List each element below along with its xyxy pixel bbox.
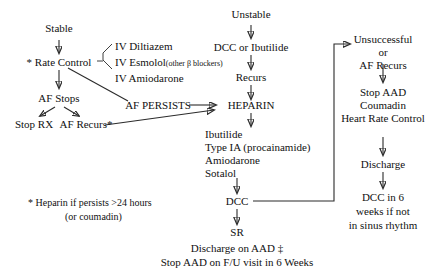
node-unsuccessful: Unsuccessful — [354, 33, 413, 46]
node-af-stops: AF Stops — [38, 92, 79, 105]
node-heparin: HEPARIN — [228, 99, 275, 112]
node-iv-esmolol: IV Esmolol(other β blockers) — [115, 56, 223, 70]
beta-blockers-note: (other β blockers) — [166, 59, 223, 68]
node-or: or — [378, 46, 387, 59]
node-dcc-6weeks-line1: DCC in 6 — [362, 191, 404, 204]
node-sr: SR — [230, 226, 243, 239]
node-iv-diltiazem: IV Diltiazem — [115, 40, 173, 53]
node-coumadin: Coumadin — [360, 99, 406, 112]
edge-af-stops-to-af-recurs — [64, 107, 79, 116]
brace-rate-control-drugs — [103, 44, 112, 69]
node-iv-amiodarone: IV Amiodarone — [115, 72, 184, 85]
node-unstable: Unstable — [231, 8, 270, 21]
footnote-heparin-line2: (or coumadin) — [65, 210, 122, 223]
node-dcc-or-ibutilide: DCC or Ibutilide — [214, 41, 289, 54]
node-stop-aad-right: Stop AAD — [360, 86, 406, 99]
node-heart-rate-control: Heart Rate Control — [341, 112, 425, 125]
node-stop-rx: Stop RX — [15, 118, 53, 131]
node-sotalol: Sotalol — [205, 167, 236, 180]
node-stable: Stable — [45, 22, 73, 35]
node-dcc-6weeks-line3: in sinus rhythm — [349, 219, 417, 232]
node-discharge-on-aad: Discharge on AAD ‡ — [191, 242, 283, 255]
node-rate-control: * Rate Control — [27, 56, 92, 69]
flowchart-canvas: Stable * Rate Control IV Diltiazem IV Es… — [0, 0, 439, 277]
node-ibutilide: Ibutilide — [205, 128, 242, 141]
node-dcc-center: DCC — [226, 195, 249, 208]
edge-af-stops-to-stop-rx — [40, 107, 55, 116]
node-discharge-right: Discharge — [361, 158, 405, 171]
node-type-ia: Type IA (procainamide) — [205, 141, 311, 154]
edge-af-recurs-to-heparin — [105, 110, 214, 125]
node-af-recurs-left: AF Recurs* — [60, 118, 113, 131]
node-af-persists: AF PERSISTS — [125, 99, 191, 112]
node-recurs: Recurs — [236, 71, 267, 84]
node-amiodarone: Amiodarone — [205, 154, 260, 167]
iv-esmolol-label: IV Esmolol — [115, 56, 166, 68]
node-af-recurs-right: AF Recurs — [359, 59, 406, 72]
node-stop-aad-followup: Stop AAD on F/U visit in 6 Weeks — [161, 256, 314, 269]
edge-dcc-to-unsuccessful — [253, 44, 350, 201]
node-dcc-6weeks-line2: weeks if not — [356, 205, 410, 218]
footnote-heparin-line1: * Heparin if persists >24 hours — [28, 196, 152, 209]
